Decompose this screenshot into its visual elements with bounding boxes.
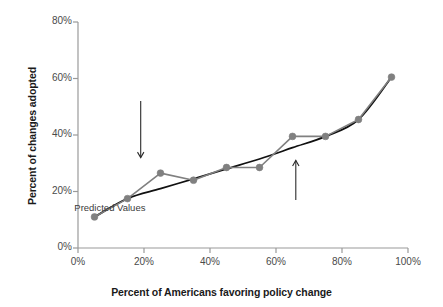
- x-tick-label: 20%: [119, 256, 169, 267]
- x-tick-label: 60%: [251, 256, 301, 267]
- series-observed-markers: [91, 74, 395, 221]
- axis-lines: [78, 22, 408, 248]
- y-tick-label: 0%: [30, 241, 72, 252]
- tick-marks: [73, 22, 408, 253]
- x-tick-label: 40%: [185, 256, 235, 267]
- y-tick-label: 60%: [30, 72, 72, 83]
- x-tick-label: 80%: [317, 256, 367, 267]
- annotation-label-predicted: Predicted Values: [74, 202, 145, 213]
- x-tick-label: 100%: [383, 256, 433, 267]
- series-observed-line: [95, 77, 392, 217]
- y-tick-label: 80%: [30, 15, 72, 26]
- series-predicted-line: [95, 77, 392, 217]
- x-tick-label: 0%: [53, 256, 103, 267]
- annotation-arrows: [138, 101, 300, 200]
- y-tick-label: 20%: [30, 185, 72, 196]
- chart-figure: Percent of changes adopted Percent of Am…: [0, 0, 443, 307]
- y-tick-label: 40%: [30, 128, 72, 139]
